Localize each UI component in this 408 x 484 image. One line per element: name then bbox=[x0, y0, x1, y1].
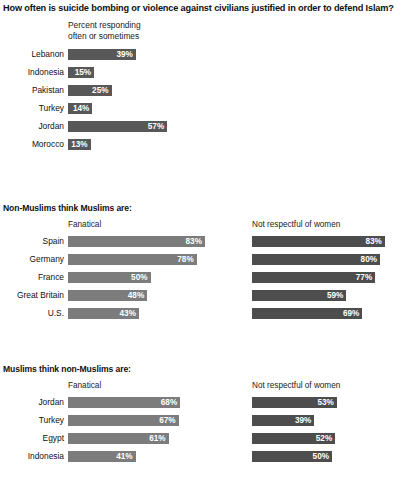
bar-right-turkey: 39% bbox=[252, 415, 314, 426]
bar-right-germany: 80% bbox=[252, 254, 380, 265]
bar-right-spain: 83% bbox=[252, 236, 385, 247]
bar-value-label: 83% bbox=[186, 236, 202, 247]
bar-value-label: 14% bbox=[73, 103, 89, 114]
bar-left-jordan: 57% bbox=[68, 121, 167, 132]
bar-left-morocco: 13% bbox=[68, 139, 91, 150]
bar-right-u-s-: 69% bbox=[252, 308, 362, 319]
bar-right-indonesia: 50% bbox=[252, 451, 332, 462]
bar-value-label: 57% bbox=[148, 121, 164, 132]
bar-value-label: 50% bbox=[313, 451, 329, 462]
row-label-pakistan: Pakistan bbox=[32, 85, 64, 96]
bar-left-pakistan: 25% bbox=[68, 85, 112, 96]
bar-right-egypt: 52% bbox=[252, 433, 335, 444]
bar-value-label: 69% bbox=[343, 308, 359, 319]
bar-left-egypt: 61% bbox=[68, 433, 169, 444]
bar-value-label: 39% bbox=[295, 415, 311, 426]
row-label-turkey: Turkey bbox=[39, 415, 64, 426]
bar-value-label: 61% bbox=[149, 433, 165, 444]
bar-right-great-britain: 59% bbox=[252, 290, 346, 301]
bar-value-label: 77% bbox=[356, 272, 372, 283]
row-label-egypt: Egypt bbox=[43, 433, 64, 444]
bar-left-u-s-: 43% bbox=[68, 308, 139, 319]
bar-left-turkey: 67% bbox=[68, 415, 179, 426]
bar-value-label: 15% bbox=[75, 67, 91, 78]
bar-right-jordan: 53% bbox=[252, 397, 337, 408]
panel-heading: Muslims think non-Muslims are: bbox=[3, 364, 131, 374]
bar-left-indonesia: 15% bbox=[68, 67, 94, 78]
bar-right-france: 77% bbox=[252, 272, 375, 283]
row-label-great-britain: Great Britain bbox=[17, 290, 64, 301]
panel-heading: Non-Muslims think Muslims are: bbox=[3, 203, 132, 213]
bar-value-label: 80% bbox=[361, 254, 377, 265]
row-label-indonesia: Indonesia bbox=[28, 451, 64, 462]
bar-value-label: 67% bbox=[159, 415, 175, 426]
row-label-u-s-: U.S. bbox=[48, 308, 64, 319]
bar-value-label: 43% bbox=[120, 308, 136, 319]
bar-left-spain: 83% bbox=[68, 236, 205, 247]
column-caption-not-respectful: Not respectful of women bbox=[252, 381, 340, 390]
bar-value-label: 53% bbox=[317, 397, 333, 408]
row-label-spain: Spain bbox=[43, 236, 64, 247]
chart-root: How often is suicide bombing or violence… bbox=[0, 0, 408, 484]
bar-left-france: 50% bbox=[68, 272, 151, 283]
bar-value-label: 41% bbox=[116, 451, 132, 462]
row-label-jordan: Jordan bbox=[38, 397, 64, 408]
bar-left-indonesia: 41% bbox=[68, 451, 136, 462]
column-caption-not-respectful: Not respectful of women bbox=[252, 220, 340, 229]
bar-left-germany: 78% bbox=[68, 254, 197, 265]
bar-value-label: 68% bbox=[161, 397, 177, 408]
bar-value-label: 78% bbox=[177, 254, 193, 265]
row-label-indonesia: Indonesia bbox=[28, 67, 64, 78]
bar-left-lebanon: 39% bbox=[68, 49, 136, 60]
panel-note-line-2: often or sometimes bbox=[68, 31, 139, 41]
bar-value-label: 25% bbox=[92, 85, 108, 96]
bar-value-label: 13% bbox=[71, 139, 87, 150]
column-caption-fanatical: Fanatical bbox=[68, 381, 101, 390]
page-title: How often is suicide bombing or violence… bbox=[3, 3, 407, 13]
bar-value-label: 83% bbox=[365, 236, 381, 247]
bar-left-great-britain: 48% bbox=[68, 290, 147, 301]
bar-value-label: 59% bbox=[327, 290, 343, 301]
row-label-jordan: Jordan bbox=[38, 121, 64, 132]
bar-value-label: 52% bbox=[316, 433, 332, 444]
bar-value-label: 39% bbox=[116, 49, 132, 60]
row-label-lebanon: Lebanon bbox=[31, 49, 64, 60]
bar-left-turkey: 14% bbox=[68, 103, 92, 114]
bar-value-label: 48% bbox=[128, 290, 144, 301]
row-label-turkey: Turkey bbox=[39, 103, 64, 114]
panel-note-line-1: Percent responding bbox=[68, 20, 141, 30]
bar-value-label: 50% bbox=[131, 272, 147, 283]
column-caption-fanatical: Fanatical bbox=[68, 220, 101, 229]
bar-left-jordan: 68% bbox=[68, 397, 180, 408]
row-label-morocco: Morocco bbox=[32, 139, 64, 150]
row-label-france: France bbox=[38, 272, 64, 283]
row-label-germany: Germany bbox=[30, 254, 64, 265]
